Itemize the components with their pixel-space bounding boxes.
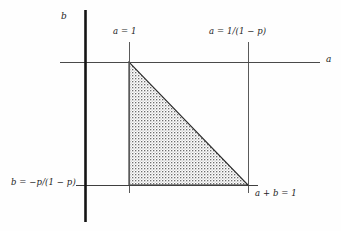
axis-label-b: b [61,11,67,21]
shaded-triangle-region [129,62,248,185]
annotation-a-equals-one-over-one-minus-p: a = 1/(1 − p) [209,26,266,36]
math-diagram: b a a = 1 a = 1/(1 − p) a + b = 1 b = −p… [0,0,341,231]
annotation-a-plus-b-equals-1: a + b = 1 [255,188,297,198]
annotation-b-equals-neg-p-over-one-minus-p: b = −p/(1 − p) [11,177,76,187]
annotation-a-equals-1: a = 1 [113,26,137,36]
axis-label-a: a [326,54,331,64]
